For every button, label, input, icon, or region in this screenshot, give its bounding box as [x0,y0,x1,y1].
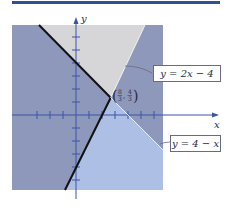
y-axis-arrow-icon [74,17,79,24]
equation-label-2x-minus-4: y = 2x − 4 [153,65,221,82]
svg-text:8: 8 [118,88,122,95]
x-axis-arrow-icon [212,113,219,118]
svg-text:): ) [133,88,138,104]
equation-label-4-minus-x: y = 4 − x [170,135,221,152]
svg-text:4: 4 [128,88,132,95]
y-axis-label: y [80,13,87,24]
svg-text:3: 3 [118,95,122,102]
svg-text:,: , [123,92,125,100]
svg-text:3: 3 [128,95,132,102]
svg-text:(: ( [112,88,117,104]
x-axis-label: x [214,119,220,130]
inequality-graph: y x ( 8 3 , 4 3 ) [0,0,235,211]
